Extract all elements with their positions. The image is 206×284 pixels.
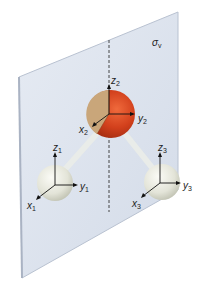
x1-axis-label: x1 <box>27 201 36 212</box>
y3-axis-label: y3 <box>183 181 192 192</box>
mirror-plane-label: σv <box>152 38 162 49</box>
z3-axis-label: z3 <box>158 143 167 154</box>
water-symmetry-diagram <box>0 0 206 284</box>
z2-axis-label: z2 <box>111 76 120 87</box>
x3-axis-label: x3 <box>132 199 141 210</box>
x2-axis-label: x2 <box>79 125 88 136</box>
z1-axis-label: z1 <box>53 143 62 154</box>
y1-axis-label: y1 <box>80 182 89 193</box>
y2-axis-label: y2 <box>138 114 147 125</box>
mirror-plane <box>19 12 178 278</box>
